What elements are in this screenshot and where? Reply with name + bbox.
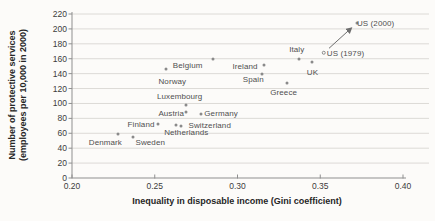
data-point-greece <box>286 82 289 85</box>
y-tick-label: 160 <box>53 54 67 64</box>
country-label-belgium: Belgium <box>173 60 203 69</box>
country-label-spain: Spain <box>243 74 264 83</box>
data-point-finland <box>157 123 160 126</box>
y-tick-label: 20 <box>58 158 67 168</box>
country-label-sweden: Sweden <box>135 138 165 147</box>
data-point-germany <box>200 112 203 115</box>
y-tick-label: 220 <box>53 9 67 19</box>
y-tick-label: 80 <box>58 113 67 123</box>
us-change-arrow <box>329 28 351 48</box>
y-axis-title-line1: Number of protective services <box>7 29 18 161</box>
data-point-luxembourg <box>185 103 188 106</box>
country-label-norway: Norway <box>158 76 186 85</box>
country-label-germany: Germany <box>204 109 238 118</box>
country-label-denmark: Denmark <box>89 137 122 146</box>
data-point-italy <box>297 57 300 60</box>
country-label-austria: Austria <box>158 108 184 117</box>
data-point-ireland <box>262 63 265 66</box>
y-tick-label: 120 <box>53 84 67 94</box>
x-tick-label: 0.40 <box>395 181 412 191</box>
y-tick-label: 140 <box>53 69 67 79</box>
country-label-switzerland: Switzerland <box>188 120 230 129</box>
data-point-switzerland <box>180 124 183 127</box>
data-point-netherlands <box>175 124 178 127</box>
data-point-denmark <box>117 133 120 136</box>
country-label-us-1979: US (1979) <box>327 48 364 57</box>
y-tick-label: 200 <box>53 24 67 34</box>
country-label-finland: Finland <box>128 119 155 128</box>
y-tick-label: 180 <box>53 39 67 49</box>
country-label-italy: Italy <box>289 45 304 54</box>
country-label-uk: UK <box>307 67 318 76</box>
country-label-ireland: Ireland <box>232 61 257 70</box>
y-axis-title-line2: (employees per 10,000 in 2000) <box>18 29 29 161</box>
x-axis-title: Inequality in disposable income (Gini co… <box>132 196 342 206</box>
y-tick-label: 60 <box>58 128 67 138</box>
country-label-greece: Greece <box>270 87 297 96</box>
country-label-luxembourg: Luxembourg <box>157 91 202 100</box>
data-point-austria <box>185 111 188 114</box>
y-tick-label: 100 <box>53 98 67 108</box>
scatter-chart: Number of protective services (employees… <box>0 0 435 221</box>
y-tick-label: 40 <box>58 143 67 153</box>
data-point-belgium <box>211 57 214 60</box>
data-point-norway <box>165 68 168 71</box>
x-tick-label: 0.35 <box>312 181 329 191</box>
data-point-uk <box>310 60 313 63</box>
x-tick-label: 0.20 <box>64 181 81 191</box>
x-tick-label: 0.25 <box>146 181 163 191</box>
data-point-us-1979 <box>321 51 326 56</box>
country-label-us-2000: US (2000) <box>357 18 394 27</box>
x-tick-label: 0.30 <box>229 181 246 191</box>
y-axis-title: Number of protective services (employees… <box>7 29 29 161</box>
data-point-sweden <box>132 136 135 139</box>
